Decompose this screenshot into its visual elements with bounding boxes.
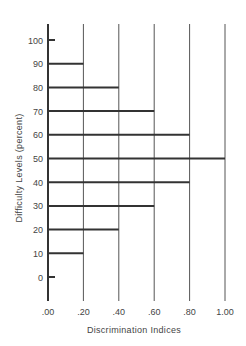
y-tick-label: 10 <box>33 249 43 259</box>
x-tick-label: .80 <box>183 307 196 317</box>
y-tick-label: 90 <box>33 59 43 69</box>
y-tick-label: 80 <box>33 83 43 93</box>
x-tick-label: .20 <box>77 307 90 317</box>
y-axis-title: Difficulty Levels (percent) <box>14 114 24 223</box>
y-axis: 0102030405060708090100 <box>28 24 48 301</box>
y-tick-label: 70 <box>33 107 43 117</box>
bars <box>48 40 225 277</box>
x-tick-label: .60 <box>148 307 161 317</box>
chart-svg: 0102030405060708090100 .00.20.40.60.801.… <box>0 0 246 346</box>
vertical-grid-lines <box>83 24 225 301</box>
y-tick-label: 30 <box>33 201 43 211</box>
y-tick-label: 60 <box>33 130 43 140</box>
x-axis: .00.20.40.60.801.00 <box>42 307 234 317</box>
y-tick-label: 100 <box>28 36 43 46</box>
y-tick-label: 50 <box>33 154 43 164</box>
x-tick-label: .40 <box>113 307 126 317</box>
x-axis-title: Discrimination Indices <box>87 325 181 335</box>
y-tick-label: 0 <box>38 273 43 283</box>
x-tick-label: 1.00 <box>216 307 234 317</box>
y-tick-label: 40 <box>33 178 43 188</box>
x-tick-label: .00 <box>42 307 55 317</box>
y-tick-label: 20 <box>33 225 43 235</box>
